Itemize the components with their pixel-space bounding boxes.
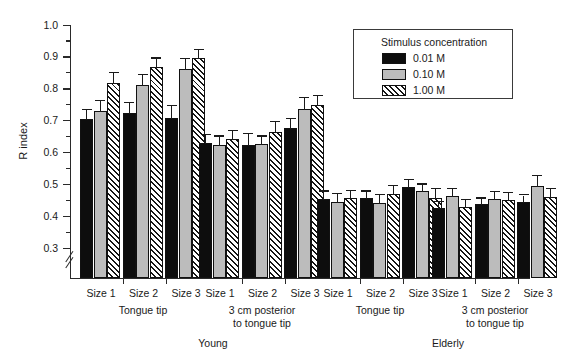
error-bar-cap xyxy=(151,57,161,58)
bar-010M-size1 xyxy=(331,202,344,278)
error-bar xyxy=(290,119,291,129)
bar-010M-size3 xyxy=(298,109,311,278)
error-bar-cap xyxy=(180,58,190,59)
region-label-line2: to tongue tip xyxy=(197,317,327,330)
error-bar-cap xyxy=(286,118,296,119)
y-tick-major xyxy=(63,184,71,185)
error-bar-cap xyxy=(490,191,500,192)
error-bar-cap xyxy=(95,100,105,101)
y-tick-major xyxy=(63,25,71,26)
bar-rect xyxy=(331,202,344,278)
error-bar-cap xyxy=(404,179,414,180)
y-tick-label: 0.6 xyxy=(22,147,58,158)
x-axis-separator-tick xyxy=(475,278,476,284)
bar-001M-size2 xyxy=(475,204,488,278)
legend-swatch-black xyxy=(382,53,406,64)
error-bar xyxy=(248,134,249,146)
bar-rect xyxy=(179,69,192,278)
error-bar xyxy=(232,131,233,140)
error-bar xyxy=(550,189,551,198)
bar-010M-size1 xyxy=(213,145,226,278)
error-bar xyxy=(379,195,380,203)
bar-rect xyxy=(80,119,93,278)
bar-001M-size1 xyxy=(432,208,445,278)
bar-100M-size1 xyxy=(226,139,239,278)
region-label: Tongue tip xyxy=(78,304,208,317)
bar-rect xyxy=(387,194,400,278)
bar-rect xyxy=(94,111,107,278)
error-bar-cap xyxy=(82,109,92,110)
bar-rect xyxy=(416,191,429,278)
bar-rect xyxy=(226,139,239,278)
x-axis-separator-tick xyxy=(285,278,286,284)
y-tick-label: 0.8 xyxy=(22,83,58,94)
bar-100M-size2 xyxy=(502,200,515,278)
error-bar-cap xyxy=(532,175,542,176)
error-bar xyxy=(156,59,157,69)
error-bar xyxy=(366,192,367,200)
y-tick-major xyxy=(63,56,71,57)
region-label-line2: to tongue tip xyxy=(430,317,560,330)
region-label: Tongue tip xyxy=(315,304,445,317)
bar-rect xyxy=(544,197,557,278)
bar-100M-size1 xyxy=(344,198,357,278)
y-tick-label: 0.7 xyxy=(22,115,58,126)
bar-100M-size1 xyxy=(107,83,120,278)
error-bar-cap xyxy=(319,190,329,191)
error-bar xyxy=(219,137,220,147)
error-bar xyxy=(452,189,453,197)
bar-rect xyxy=(459,207,472,278)
bar-rect xyxy=(446,196,459,278)
bar-rect xyxy=(255,144,268,278)
bar-001M-size3 xyxy=(402,187,415,278)
bar-rect xyxy=(317,199,330,278)
bar-rect xyxy=(475,204,488,278)
error-bar-cap xyxy=(388,185,398,186)
error-bar-cap xyxy=(375,194,385,195)
error-bar-cap xyxy=(124,102,134,103)
bar-rect xyxy=(517,202,530,278)
legend-label: 0.01 M xyxy=(413,52,445,65)
x-axis-separator-tick xyxy=(518,278,519,284)
legend: Stimulus concentration 0.01 M0.10 M1.00 … xyxy=(353,29,513,99)
age-group-label: Young xyxy=(113,337,313,349)
region-label: 3 cm posteriorto tongue tip xyxy=(430,304,560,330)
error-bar xyxy=(142,75,143,86)
bar-010M-size2 xyxy=(136,85,149,278)
bar-rect xyxy=(123,113,136,278)
y-tick-minor xyxy=(66,232,71,233)
error-bar-cap xyxy=(361,190,371,191)
y-tick-minor xyxy=(66,104,71,105)
bar-001M-size1 xyxy=(80,119,93,278)
error-bar-cap xyxy=(417,183,427,184)
bar-rect xyxy=(107,83,120,278)
y-tick-label-text: 0.7 xyxy=(24,115,58,126)
error-bar-cap xyxy=(434,201,444,202)
bar-001M-size2 xyxy=(242,145,255,278)
error-bar xyxy=(537,176,538,187)
bar-100M-size2 xyxy=(387,194,400,278)
bar-001M-size3 xyxy=(517,202,530,278)
error-bar xyxy=(465,200,466,208)
error-bar xyxy=(261,137,262,146)
y-tick-label: 0.5 xyxy=(22,179,58,190)
y-tick-label-text: 1.0 xyxy=(24,20,58,31)
bar-001M-size3 xyxy=(165,118,178,278)
error-bar-cap xyxy=(431,188,441,189)
bar-100M-size2 xyxy=(150,67,163,278)
bar-001M-size2 xyxy=(360,198,373,278)
y-tick-minor xyxy=(66,136,71,137)
error-bar xyxy=(198,50,199,59)
error-bar xyxy=(129,103,130,113)
y-tick-label-text: 0.4 xyxy=(24,211,58,222)
bar-rect xyxy=(136,85,149,278)
bar-010M-size2 xyxy=(488,199,501,278)
bar-010M-size3 xyxy=(179,69,192,278)
bar-rect xyxy=(531,186,544,278)
error-bar xyxy=(350,191,351,199)
x-axis-separator-tick xyxy=(123,278,124,284)
bar-010M-size2 xyxy=(373,203,386,278)
bar-001M-size2 xyxy=(123,113,136,278)
bar-rect xyxy=(213,145,226,278)
